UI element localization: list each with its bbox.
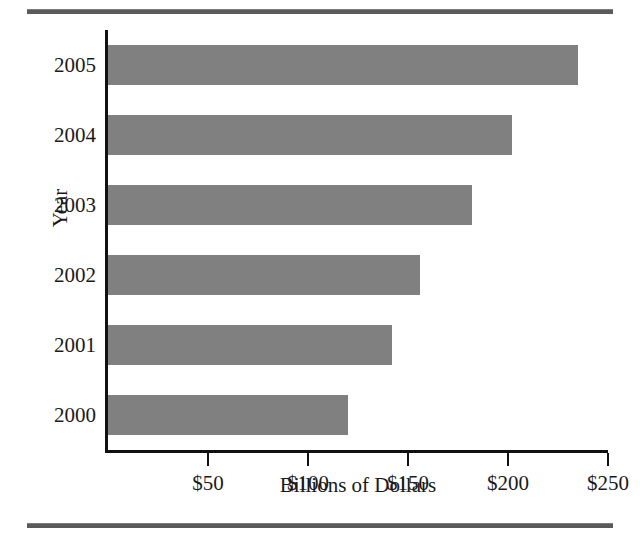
y-axis-label-2002: 2002 — [4, 263, 96, 287]
y-axis-label-2000: 2000 — [4, 403, 96, 427]
x-tick-50 — [207, 453, 209, 466]
bar-2001 — [108, 325, 392, 365]
x-axis-line — [105, 450, 608, 453]
y-axis-line — [105, 30, 108, 450]
bar-2002 — [108, 255, 420, 295]
x-tick-250 — [607, 453, 609, 466]
x-tick-150 — [407, 453, 409, 466]
x-tick-200 — [507, 453, 509, 466]
plot-area: $50$100$150$200$250 20052004200320022001… — [108, 30, 608, 450]
bar-2003 — [108, 185, 472, 225]
x-tick-100 — [307, 453, 309, 466]
x-axis-title: Billions of Dollars — [108, 472, 608, 498]
y-axis-label-2001: 2001 — [4, 333, 96, 357]
y-axis-label-2004: 2004 — [4, 123, 96, 147]
y-axis-label-2005: 2005 — [4, 53, 96, 77]
bar-2004 — [108, 115, 512, 155]
bar-2005 — [108, 45, 578, 85]
y-axis-label-2003: 2003 — [4, 193, 96, 217]
bar-2000 — [108, 395, 348, 435]
top-divider-rule — [27, 9, 613, 14]
bar-chart-figure: Year $50$100$150$200$250 200520042003200… — [0, 0, 640, 542]
bottom-divider-rule — [27, 523, 613, 528]
